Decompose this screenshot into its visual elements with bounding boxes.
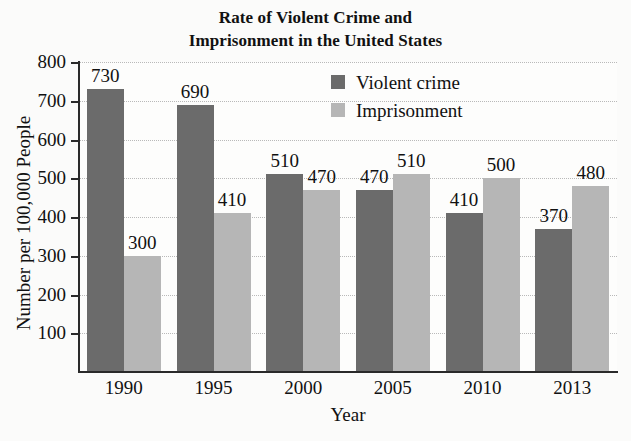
bar-imprisonment-1995 (214, 213, 251, 372)
y-tick-label-400: 400 (14, 207, 66, 226)
y-tick-label-600: 600 (14, 130, 66, 149)
x-axis-title: Year (79, 404, 617, 426)
y-tick-mark-100 (71, 333, 78, 335)
bar-imprisonment-2013 (572, 186, 609, 372)
y-tick-mark-300 (71, 256, 78, 258)
x-tick-label-2000: 2000 (258, 378, 348, 398)
bar-value-imprisonment-2010: 500 (473, 155, 529, 174)
legend-item-violent-crime: Violent crime (331, 68, 531, 96)
bar-imprisonment-2010 (483, 178, 520, 372)
bar-violent-crime-2010 (446, 213, 483, 372)
y-tick-label-200: 200 (14, 285, 66, 304)
bar-violent-crime-2000 (266, 174, 303, 372)
y-tick-label-100: 100 (14, 323, 66, 342)
legend-label-imprisonment: Imprisonment (356, 101, 463, 120)
y-tick-label-500: 500 (14, 168, 66, 187)
x-axis-line (78, 371, 618, 373)
chart-figure: Rate of Violent Crime and Imprisonment i… (0, 0, 631, 441)
x-tick-label-1990: 1990 (79, 378, 169, 398)
chart-title: Rate of Violent Crime and Imprisonment i… (0, 6, 631, 52)
chart-legend: Violent crime Imprisonment (331, 68, 531, 124)
x-tick-label-2013: 2013 (527, 378, 617, 398)
gridline-600 (79, 140, 617, 141)
bar-violent-crime-1995 (177, 105, 214, 372)
gridline-800 (79, 62, 617, 63)
x-tick-label-1995: 1995 (169, 378, 259, 398)
y-axis-line (78, 61, 80, 373)
x-tick-label-2005: 2005 (348, 378, 438, 398)
y-tick-label-700: 700 (14, 91, 66, 110)
bar-value-imprisonment-1995: 410 (204, 190, 260, 209)
bar-imprisonment-2005 (393, 174, 430, 372)
bar-value-violent-crime-1990: 730 (77, 66, 133, 85)
bar-imprisonment-1990 (124, 256, 161, 372)
y-tick-mark-500 (71, 178, 78, 180)
chart-title-line-1: Rate of Violent Crime and (219, 8, 412, 27)
y-tick-mark-200 (71, 295, 78, 297)
y-tick-mark-700 (71, 101, 78, 103)
legend-label-violent-crime: Violent crime (356, 73, 460, 92)
x-tick-label-2010: 2010 (438, 378, 528, 398)
bar-violent-crime-1990 (87, 89, 124, 372)
bar-value-imprisonment-2005: 510 (383, 151, 439, 170)
legend-item-imprisonment: Imprisonment (331, 96, 531, 124)
y-tick-label-300: 300 (14, 246, 66, 265)
y-tick-mark-400 (71, 217, 78, 219)
y-tick-label-800: 800 (14, 52, 66, 71)
bar-imprisonment-2000 (303, 190, 340, 372)
legend-swatch-violent-crime (331, 75, 345, 89)
legend-swatch-imprisonment (331, 103, 345, 117)
chart-title-line-2: Imprisonment in the United States (0, 29, 631, 52)
bar-value-imprisonment-1990: 300 (114, 233, 170, 252)
y-tick-mark-600 (71, 140, 78, 142)
bar-value-imprisonment-2000: 470 (294, 167, 350, 186)
bar-value-violent-crime-1995: 690 (167, 82, 223, 101)
bar-violent-crime-2005 (356, 190, 393, 372)
bar-value-imprisonment-2013: 480 (563, 163, 619, 182)
bar-violent-crime-2013 (535, 229, 572, 372)
y-tick-mark-800 (71, 62, 78, 64)
